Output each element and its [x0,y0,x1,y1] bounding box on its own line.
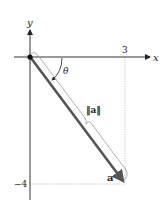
y-axis-label: y [26,17,33,28]
vector-label: a [107,172,114,183]
magnitude-bracket [30,53,127,181]
x-tick-label: 3 [122,45,128,55]
angle-label: θ [63,66,69,76]
vector-a [31,58,123,181]
x-axis-label: x [153,52,159,63]
angle-theta-arc [52,58,62,80]
magnitude-label: ‖a‖ [86,105,101,116]
vector-diagram: y x 3 −4 θ ‖a‖ a [0,0,163,209]
origin-point [27,54,32,59]
y-tick-label: −4 [14,179,28,189]
